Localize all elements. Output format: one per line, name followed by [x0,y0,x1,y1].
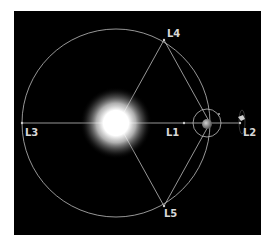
sun-icon [80,87,152,159]
label-l2: L2 [243,127,256,138]
label-l1: L1 [166,127,179,138]
label-l5: L5 [164,208,177,219]
label-l4: L4 [167,28,180,39]
lagrange-diagram: L4 L5 L3 L1 L2 [14,11,261,235]
diagram-canvas: L4 L5 L3 L1 L2 [14,11,261,235]
moon-icon [218,113,220,115]
label-l3: L3 [25,127,38,138]
earth-icon [202,119,212,129]
